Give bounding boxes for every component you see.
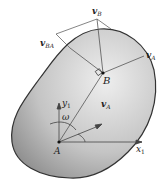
- label-omega: ω: [62, 112, 70, 122]
- rigid-body-diagram: vB vBA vA B y1 ω vA A x1: [0, 0, 165, 189]
- label-point-B: B: [102, 75, 110, 86]
- point-A-dot: [57, 140, 60, 143]
- label-vB: vB: [92, 6, 102, 17]
- label-vBA: vBA: [40, 38, 55, 49]
- label-vA-top: vA: [146, 50, 156, 61]
- label-x1: x1: [136, 144, 145, 155]
- diagram-canvas: vB vBA vA B y1 ω vA A x1: [0, 0, 165, 189]
- label-point-A: A: [53, 146, 61, 156]
